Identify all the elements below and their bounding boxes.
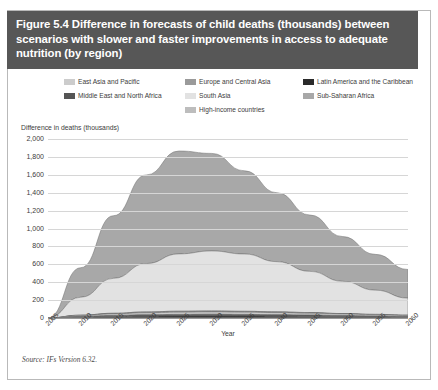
figure-title-band: Figure 5.4 Difference in forecasts of ch… — [7, 11, 418, 69]
plot-canvas: 2,0001,8001,6001,4001,2001,0008006004002… — [48, 139, 408, 318]
legend-swatch-icon — [64, 93, 75, 99]
grid-line — [48, 300, 408, 301]
grid-line — [48, 246, 408, 247]
legend-item: High-income countries — [185, 106, 265, 113]
y-axis-label: Difference in deaths (thousands) — [21, 124, 119, 131]
grid-line — [48, 264, 408, 265]
legend-item: Sub-Saharan Africa — [303, 92, 374, 99]
grid-line — [48, 157, 408, 158]
legend-label: South Asia — [199, 92, 231, 99]
legend-item: Middle East and North Africa — [64, 92, 162, 99]
page-title: Figure 5.4 Difference in forecasts of ch… — [16, 17, 409, 61]
y-axis-tick: 1,600 — [26, 171, 44, 178]
y-axis-tick: 800 — [32, 242, 44, 249]
y-axis-tick: 1,400 — [26, 189, 44, 196]
legend-swatch-icon — [303, 79, 314, 85]
legend-item: East Asia and Pacific — [64, 78, 140, 85]
y-axis-tick: 400 — [32, 278, 44, 285]
x-axis-ticks: 2005201020152020202520302035204020452050… — [48, 322, 408, 362]
legend-swatch-icon — [185, 107, 196, 113]
legend-swatch-icon — [303, 93, 314, 99]
legend-label: High-income countries — [199, 106, 265, 113]
grid-line — [48, 211, 408, 212]
y-axis-tick: 200 — [32, 296, 44, 303]
legend-label: Latin America and the Caribbean — [317, 78, 413, 85]
grid-line — [48, 193, 408, 194]
legend-label: East Asia and Pacific — [78, 78, 140, 85]
grid-line — [48, 139, 408, 140]
y-axis-tick: 1,800 — [26, 153, 44, 160]
legend-label: Middle East and North Africa — [78, 92, 162, 99]
grid-line — [48, 175, 408, 176]
y-axis-tick: 1,200 — [26, 207, 44, 214]
legend-item: Latin America and the Caribbean — [303, 78, 413, 85]
x-axis-label: Year — [48, 330, 408, 337]
legend-swatch-icon — [185, 79, 196, 85]
grid-line — [48, 282, 408, 283]
grid-line — [48, 229, 408, 230]
chart-legend: East Asia and PacificEurope and Central … — [7, 78, 418, 120]
legend-swatch-icon — [64, 79, 75, 85]
figure-source: Source: IFs Version 6.32. — [22, 355, 97, 364]
x-axis-tick: 2005 — [44, 311, 60, 327]
legend-label: Europe and Central Asia — [199, 78, 270, 85]
plot-area: Difference in deaths (thousands) 2,0001,… — [14, 124, 414, 346]
legend-item: Europe and Central Asia — [185, 78, 270, 85]
grid-line — [48, 318, 408, 319]
y-axis-tick: 600 — [32, 260, 44, 267]
legend-swatch-icon — [185, 93, 196, 99]
y-axis-tick: 0 — [40, 314, 44, 321]
y-axis-tick: 1,000 — [26, 225, 44, 232]
legend-item: South Asia — [185, 92, 231, 99]
y-axis-tick: 2,000 — [26, 135, 44, 142]
legend-label: Sub-Saharan Africa — [317, 92, 374, 99]
